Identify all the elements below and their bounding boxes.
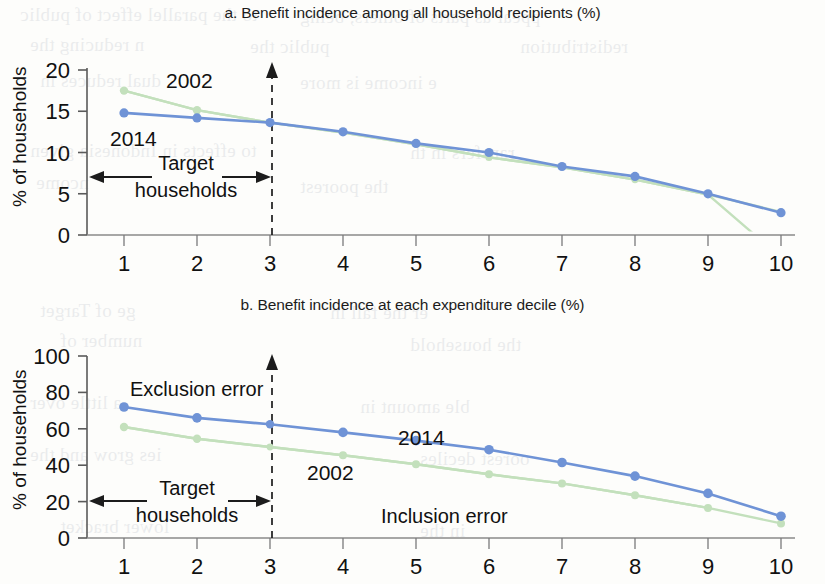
chart-b-plot-area: 0 20 40 60 80 100 1 2 3 4 5 xyxy=(0,314,825,572)
chart-b-inclusion-error-label: Inclusion error xyxy=(381,505,508,527)
chart-a-cutoff-line xyxy=(266,62,278,235)
chart-a-svg: 0 5 10 15 20 1 2 3 4 5 6 xyxy=(0,22,825,280)
chart-b-xtick-4: 4 xyxy=(337,554,349,579)
chart-b-xtick-7: 7 xyxy=(556,554,568,579)
chart-a-label-2002: 2002 xyxy=(166,69,213,92)
chart-b-exclusion-error-label: Exclusion error xyxy=(130,378,264,400)
chart-b-xtick-9: 9 xyxy=(702,554,714,579)
chart-b-y-axis-title: % of households xyxy=(9,370,30,511)
chart-a-ytick-0: 0 xyxy=(58,223,70,248)
chart-a-ytick-20: 20 xyxy=(46,58,70,83)
chart-a-plot-area: 0 5 10 15 20 1 2 3 4 5 6 xyxy=(0,22,825,280)
chart-a-title: a. Benefit incidence among all household… xyxy=(0,0,825,22)
chart-panel-a: a. Benefit incidence among all household… xyxy=(0,0,825,292)
chart-b-ytick-0: 0 xyxy=(58,526,70,551)
chart-a-xtick-1: 1 xyxy=(118,251,130,276)
chart-b-households-label: households xyxy=(136,504,238,526)
chart-b-ytick-100: 100 xyxy=(33,344,70,369)
chart-a-label-2014: 2014 xyxy=(110,127,157,150)
chart-b-label-2014: 2014 xyxy=(398,426,445,449)
chart-b-xtick-5: 5 xyxy=(410,554,422,579)
chart-b-xtick-8: 8 xyxy=(629,554,641,579)
chart-a-xtick-9: 9 xyxy=(702,251,714,276)
chart-a-target-label: Target xyxy=(158,152,214,174)
chart-a-series-2002 xyxy=(120,86,784,257)
chart-a-xtick-6: 6 xyxy=(483,251,495,276)
chart-b-ytick-80: 80 xyxy=(46,380,70,405)
chart-a-xtick-10: 10 xyxy=(769,251,793,276)
chart-a-xtick-7: 7 xyxy=(556,251,568,276)
chart-b-svg: 0 20 40 60 80 100 1 2 3 4 5 xyxy=(0,314,825,582)
chart-a-households-label: households xyxy=(135,179,237,201)
chart-b-label-2002: 2002 xyxy=(307,461,354,484)
chart-b-target-label: Target xyxy=(159,477,215,499)
chart-b-y-ticks xyxy=(78,356,87,538)
chart-a-xtick-2: 2 xyxy=(191,251,203,276)
chart-b-xtick-2: 2 xyxy=(191,554,203,579)
chart-a-y-axis-title: % of households xyxy=(9,67,30,208)
chart-a-ytick-15: 15 xyxy=(46,99,70,124)
chart-b-ytick-20: 20 xyxy=(46,490,70,515)
chart-b-xtick-3: 3 xyxy=(264,554,276,579)
chart-b-xtick-6: 6 xyxy=(483,554,495,579)
chart-a-xtick-3: 3 xyxy=(264,251,276,276)
chart-b-title: b. Benefit incidence at each expenditure… xyxy=(0,292,825,314)
chart-a-ytick-5: 5 xyxy=(58,182,70,207)
chart-b-x-ticks xyxy=(124,538,781,549)
chart-b-ytick-40: 40 xyxy=(46,453,70,478)
chart-a-ytick-10: 10 xyxy=(46,141,70,166)
chart-b-xtick-10: 10 xyxy=(769,554,793,579)
chart-a-xtick-4: 4 xyxy=(337,251,349,276)
chart-b-xtick-1: 1 xyxy=(118,554,130,579)
chart-b-ytick-60: 60 xyxy=(46,417,70,442)
chart-panel-b: b. Benefit incidence at each expenditure… xyxy=(0,292,825,584)
chart-a-xtick-8: 8 xyxy=(629,251,641,276)
chart-a-y-ticks xyxy=(78,70,87,235)
chart-a-xtick-5: 5 xyxy=(410,251,422,276)
chart-a-x-ticks xyxy=(124,235,781,246)
